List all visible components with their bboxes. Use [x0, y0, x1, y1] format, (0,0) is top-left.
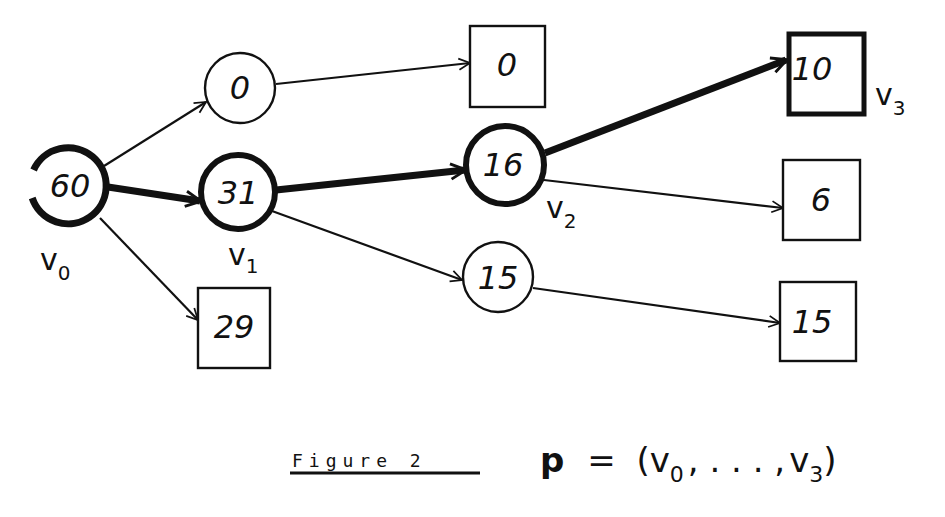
edge-60-to-31-path	[108, 187, 200, 201]
node-15-box-value: 15	[792, 303, 833, 341]
edge-0-to-0box	[276, 63, 470, 84]
node-6-box: 6	[783, 160, 860, 240]
edge-16-to-10-path	[545, 60, 786, 153]
formula-text: p = (v0, . . . ,v3)	[540, 440, 837, 487]
node-10-value: 10	[792, 50, 833, 88]
node-29-box: 29	[198, 288, 270, 368]
vertex-label-v2: v2	[546, 190, 577, 233]
node-29-value: 29	[214, 308, 255, 346]
edge-60-to-29	[100, 218, 198, 320]
vertex-label-v3: v3	[875, 77, 906, 120]
node-15-circle-value: 15	[478, 259, 519, 297]
node-10-box: 10	[789, 34, 864, 114]
node-15-box: 15	[780, 282, 856, 361]
vertex-label-v1: v1	[228, 237, 259, 278]
node-15-circle: 15	[463, 242, 533, 312]
figure-caption-text: Figure 2	[292, 450, 427, 471]
edge-15-to-15box	[533, 288, 780, 323]
edge-31-to-16-path	[276, 170, 465, 190]
node-31-value: 31	[218, 174, 259, 212]
node-16: 16	[466, 126, 544, 204]
figure-caption: Figure 2	[290, 450, 480, 473]
vertex-label-v0: v0	[40, 242, 71, 285]
edge-31-to-15	[272, 211, 462, 280]
node-60: 60	[32, 148, 106, 224]
node-16-value: 16	[483, 146, 524, 184]
edge-60-to-0	[104, 102, 206, 166]
node-60-value: 60	[50, 167, 91, 205]
node-31: 31	[201, 155, 275, 229]
tree-diagram: 60 v0 0 31 v1 29 0 16 v2 15 10 v3 6	[0, 0, 945, 517]
node-0-box-value: 0	[497, 46, 517, 84]
path-formula: p = (v0, . . . ,v3)	[540, 440, 837, 487]
node-6-value: 6	[811, 181, 831, 219]
node-0-box: 0	[470, 26, 545, 107]
edge-16-to-6	[544, 180, 783, 208]
node-0-circle-value: 0	[230, 69, 250, 107]
node-0-circle: 0	[205, 53, 275, 123]
